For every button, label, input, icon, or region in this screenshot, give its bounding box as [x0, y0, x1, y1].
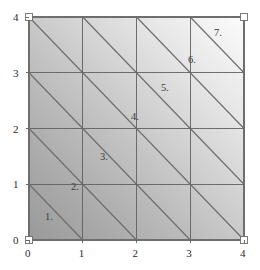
triangle-label-1: 1.	[45, 212, 53, 223]
y-tick-label-1: 1	[13, 179, 19, 190]
x-tick-label-0: 0	[25, 248, 31, 259]
triangle-label-3: 3.	[100, 152, 108, 163]
y-tick-label-2: 2	[13, 124, 19, 135]
y-tick-label-0: 0	[13, 235, 19, 246]
x-tick-label-4: 4	[240, 248, 246, 259]
triangulated-grid-plot	[0, 0, 260, 270]
triangle-label-6: 6.	[188, 55, 196, 66]
triangle-label-4: 4.	[131, 112, 139, 123]
corner-marker	[241, 14, 248, 21]
triangle-label-5: 5.	[161, 83, 169, 94]
y-tick-label-4: 4	[13, 12, 19, 23]
x-tick-label-2: 2	[133, 248, 139, 259]
triangle-label-7: 7.	[214, 28, 222, 39]
triangle-label-2: 2.	[71, 182, 79, 193]
y-tick-label-3: 3	[13, 68, 19, 79]
x-tick-label-3: 3	[186, 248, 192, 259]
x-tick-label-1: 1	[79, 248, 85, 259]
figure-container: 01234 01234 1.2.3.4.5.6.7.	[0, 0, 260, 270]
